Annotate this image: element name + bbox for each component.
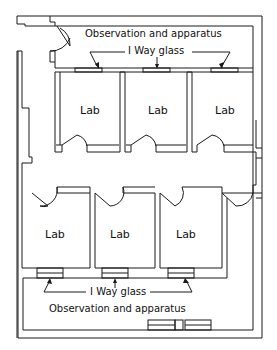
top-one-way-windows	[75, 68, 238, 72]
entrance-door-top-left	[50, 26, 70, 62]
arrow-icon	[183, 278, 189, 283]
top-observation-area: Observation and apparatus I Way glass	[55, 28, 253, 72]
bottom-lab-row: Lab Lab Lab	[22, 163, 253, 278]
lab-label: Lab	[110, 228, 130, 241]
lab-label: Lab	[148, 104, 168, 117]
lab-label: Lab	[176, 228, 196, 241]
bottom-one-way-windows	[37, 268, 194, 278]
bottom-observation-label: Observation and apparatus	[49, 303, 186, 314]
floor-plan: Observation and apparatus I Way glass	[0, 0, 277, 350]
lab-label: Lab	[45, 228, 65, 241]
arrow-icon	[113, 278, 117, 283]
bottom-observation-area: I Way glass Observation and apparatus	[44, 278, 192, 314]
lab-label: Lab	[80, 104, 100, 117]
bottom-exterior-windows	[148, 320, 211, 330]
right-wall-segments	[253, 120, 262, 198]
arrow-icon	[47, 278, 52, 284]
top-lab-row: Lab Lab Lab	[55, 72, 256, 152]
lab-label: Lab	[215, 104, 235, 117]
top-glass-label: I Way glass	[128, 45, 184, 56]
bottom-glass-label: I Way glass	[90, 286, 146, 297]
top-observation-label: Observation and apparatus	[85, 28, 222, 39]
